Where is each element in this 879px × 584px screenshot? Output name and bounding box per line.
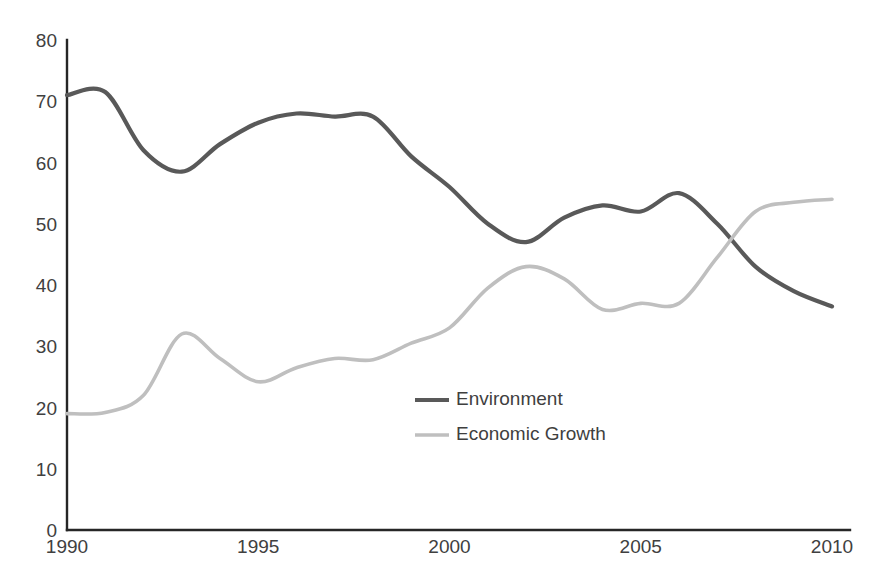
y-axis-tick-labels: 01020304050607080	[36, 30, 57, 541]
y-tick-label: 30	[36, 336, 57, 357]
y-tick-label: 50	[36, 214, 57, 235]
x-tick-label: 2000	[428, 536, 470, 557]
series-lines	[67, 89, 832, 415]
legend-label-environment: Environment	[456, 388, 563, 409]
chart-legend: EnvironmentEconomic Growth	[415, 388, 606, 444]
x-axis-tick-labels: 19901995200020052010	[46, 536, 853, 557]
chart-canvas: 01020304050607080 19901995200020052010 E…	[0, 0, 879, 584]
line-chart: 01020304050607080 19901995200020052010 E…	[0, 0, 879, 584]
y-tick-label: 40	[36, 275, 57, 296]
x-tick-label: 1995	[237, 536, 279, 557]
y-tick-label: 60	[36, 153, 57, 174]
y-tick-label: 70	[36, 91, 57, 112]
legend-label-economic-growth: Economic Growth	[456, 423, 606, 444]
x-tick-label: 2010	[811, 536, 853, 557]
x-tick-label: 1990	[46, 536, 88, 557]
y-tick-label: 10	[36, 459, 57, 480]
y-tick-label: 80	[36, 30, 57, 51]
x-tick-label: 2005	[620, 536, 662, 557]
series-line-economic-growth	[67, 199, 832, 414]
y-tick-label: 20	[36, 398, 57, 419]
series-line-environment	[67, 89, 832, 307]
